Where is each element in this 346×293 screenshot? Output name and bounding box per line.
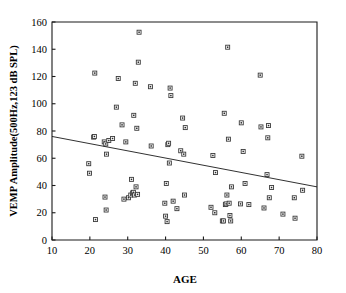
data-point [169, 94, 173, 98]
data-point [132, 113, 136, 117]
data-point [221, 219, 225, 223]
data-point [181, 116, 185, 120]
data-point [164, 214, 168, 218]
data-point [167, 161, 171, 165]
data-point [267, 124, 271, 128]
x-tick-label: 30 [122, 245, 133, 256]
data-point [300, 154, 304, 158]
data-point [270, 186, 274, 190]
data-point [133, 81, 137, 85]
data-point [227, 201, 231, 205]
y-tick-label: 140 [31, 44, 47, 55]
data-point [229, 219, 233, 223]
data-point [281, 212, 285, 216]
scatter-data-points [87, 30, 305, 223]
y-tick-label: 120 [31, 71, 47, 82]
data-point [94, 218, 98, 222]
data-point [259, 125, 263, 129]
y-axis-title: VEMP Amplitude(500Hz,123 dB SPL) [8, 45, 20, 217]
data-point [120, 123, 124, 127]
data-point [87, 162, 91, 166]
data-point [93, 71, 97, 75]
data-point [301, 188, 305, 192]
data-point [167, 141, 171, 145]
y-axis-tick-labels: 020406080100120140160 [31, 17, 47, 246]
y-tick-label: 100 [31, 98, 47, 109]
y-tick-label: 160 [31, 17, 47, 28]
data-point [122, 197, 126, 201]
data-point [226, 45, 230, 49]
data-point [292, 196, 296, 200]
data-point [148, 85, 152, 89]
y-tick-label: 40 [37, 180, 48, 191]
data-point [267, 196, 271, 200]
data-point [239, 202, 243, 206]
x-tick-label: 60 [236, 245, 247, 256]
data-point [164, 181, 168, 185]
data-point [265, 173, 269, 177]
data-point [222, 111, 226, 115]
x-axis-title: AGE [173, 273, 197, 285]
data-point [149, 144, 153, 148]
x-tick-label: 40 [160, 245, 171, 256]
data-point [183, 193, 187, 197]
data-point [171, 199, 175, 203]
data-point [105, 152, 109, 156]
y-tick-label: 80 [37, 126, 48, 137]
vemp-amplitude-scatter-chart: 020406080100120140160 1020304050607080 V… [0, 0, 346, 293]
data-point [228, 213, 232, 217]
data-point [243, 181, 247, 185]
data-point [136, 60, 140, 64]
data-point [183, 126, 187, 130]
data-point [239, 121, 243, 125]
x-tick-label: 10 [47, 245, 58, 256]
plot-canvas: 020406080100120140160 1020304050607080 V… [0, 0, 346, 293]
data-point [165, 220, 169, 224]
data-point [168, 86, 172, 90]
y-tick-label: 20 [37, 207, 48, 218]
data-point [114, 105, 118, 109]
data-point [226, 137, 230, 141]
data-point [104, 208, 108, 212]
x-tick-label: 70 [274, 245, 285, 256]
data-point [134, 185, 138, 189]
data-point [262, 206, 266, 210]
data-point [209, 205, 213, 209]
regression-trendline [52, 136, 317, 186]
data-point [293, 216, 297, 220]
data-point [103, 195, 107, 199]
data-point [247, 203, 251, 207]
data-point [137, 30, 141, 34]
data-point [182, 152, 186, 156]
x-tick-label: 50 [198, 245, 209, 256]
data-point [258, 73, 262, 77]
data-point [130, 177, 134, 181]
data-point [136, 192, 140, 196]
data-point [214, 171, 218, 175]
data-point [225, 193, 229, 197]
data-point [211, 154, 215, 158]
y-tick-label: 0 [42, 235, 47, 246]
data-point [92, 134, 96, 138]
data-point [111, 136, 115, 140]
data-point [124, 140, 128, 144]
plot-frame [52, 22, 317, 240]
x-tick-label: 80 [312, 245, 323, 256]
data-point [116, 77, 120, 81]
trendline-segment [52, 136, 317, 186]
data-point [135, 126, 139, 130]
data-point [213, 211, 217, 215]
data-point [175, 207, 179, 211]
x-tick-label: 20 [85, 245, 96, 256]
data-point [163, 201, 167, 205]
data-point [229, 185, 233, 189]
data-point [241, 149, 245, 153]
data-point [87, 171, 91, 175]
data-point [266, 136, 270, 140]
x-axis-tick-labels: 1020304050607080 [47, 245, 323, 256]
y-tick-label: 60 [37, 153, 48, 164]
